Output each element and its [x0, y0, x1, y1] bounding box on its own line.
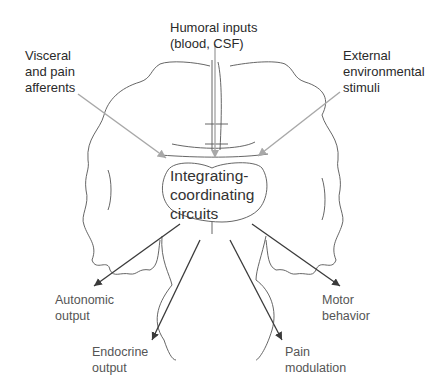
- autonomic-output-label: Autonomic output: [55, 292, 114, 324]
- pain-modulation-label: Pain modulation: [285, 344, 346, 376]
- motor-behavior-label: Motor behavior: [322, 292, 370, 324]
- visceral-afferents-label: Visceral and pain afferents: [25, 48, 75, 96]
- external-stimuli-label: External environmental stimuli: [343, 48, 425, 96]
- humoral-inputs-label: Humoral inputs (blood, CSF): [170, 20, 257, 52]
- endocrine-output-label: Endocrine output: [92, 344, 148, 376]
- diagram-canvas: Humoral inputs (blood, CSF) Visceral and…: [0, 0, 446, 392]
- integrating-circuits-label: Integrating- coordinating circuits: [170, 166, 254, 223]
